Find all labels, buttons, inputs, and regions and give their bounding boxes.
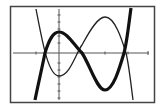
graph-screen <box>0 0 158 111</box>
